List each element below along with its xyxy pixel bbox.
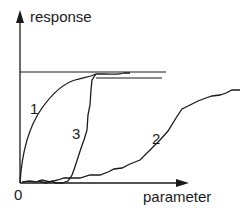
- y-axis-label: response: [30, 9, 92, 24]
- curve-3-label: 3: [72, 126, 80, 141]
- response-vs-parameter-diagram: response parameter 0 1 2 3: [0, 0, 251, 210]
- curve-2-label: 2: [152, 131, 160, 146]
- curve-3: [38, 74, 96, 183]
- x-axis-label: parameter: [143, 189, 211, 204]
- y-axis-arrow-icon: [16, 10, 24, 23]
- origin-label: 0: [14, 187, 22, 202]
- x-axis-arrow-icon: [176, 179, 189, 187]
- curve-1-label: 1: [30, 101, 38, 116]
- curve-2: [22, 90, 240, 182]
